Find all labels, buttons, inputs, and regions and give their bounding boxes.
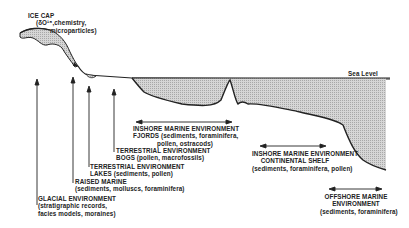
label-ice-cap: ICE CAP (δO¹⁸,chemistry, microparticles) <box>28 12 97 34</box>
glacial-line2: (stratigraphic records, <box>38 202 116 209</box>
inshore-shelf-line2: CONTINENTAL SHELF <box>252 157 338 164</box>
inshore-fjords-title: INSHORE MARINE ENVIRONMENT <box>133 125 237 132</box>
lake <box>86 74 96 78</box>
terrestrial-lakes-line2: LAKES (sediments, pollen) <box>90 170 185 177</box>
raised-marine-line2: (sediments, molluscs, foraminifera) <box>75 185 185 192</box>
inshore-fjords-line2: FJORDS (sediments, foraminifera, <box>133 132 237 139</box>
label-glacial: GLACIAL ENVIRONMENT (stratigraphic recor… <box>38 195 116 217</box>
label-inshore-shelf: INSHORE MARINE ENVIRONMENT CONTINENTAL S… <box>252 150 338 172</box>
ice-cap-title: ICE CAP <box>28 12 97 19</box>
label-offshore: OFFSHORE MARINE ENVIRONMENT (sediments, … <box>320 193 392 215</box>
sea-level-label: Sea Level <box>348 70 378 77</box>
land-surface <box>78 66 390 79</box>
inshore-shelf-line3: (sediments, foraminifera, pollen) <box>252 165 338 172</box>
inshore-fjords-line3: pollen, ostracods) <box>133 140 237 147</box>
label-raised-marine: RAISED MARINE (sediments, molluscs, fora… <box>75 178 185 193</box>
label-terrestrial-bogs: TERRESTRIAL ENVIRONMENT BOGS (pollen, ma… <box>116 147 211 162</box>
offshore-title: OFFSHORE MARINE <box>320 193 392 200</box>
label-inshore-fjords: INSHORE MARINE ENVIRONMENT FJORDS (sedim… <box>133 125 237 147</box>
inshore-shelf-title: INSHORE MARINE ENVIRONMENT <box>252 150 338 157</box>
label-terrestrial-lakes: TERRESTRIAL ENVIRONMENT LAKES (sediments… <box>90 163 185 178</box>
terrestrial-bogs-title: TERRESTRIAL ENVIRONMENT <box>116 147 211 154</box>
ice-cap-line3: microparticles) <box>28 27 97 34</box>
glacial-line3: facies models, moraines) <box>38 210 116 217</box>
offshore-line3: (sediments, foraminifera) <box>320 208 392 215</box>
ice-cap-line2: (δO¹⁸,chemistry, <box>28 19 97 26</box>
terrestrial-lakes-title: TERRESTRIAL ENVIRONMENT <box>90 163 185 170</box>
raised-marine-title: RAISED MARINE <box>75 178 185 185</box>
terrestrial-bogs-line2: BOGS (pollen, macrofossils) <box>116 154 211 161</box>
glacial-title: GLACIAL ENVIRONMENT <box>38 195 116 202</box>
offshore-line2: ENVIRONMENT <box>320 200 392 207</box>
